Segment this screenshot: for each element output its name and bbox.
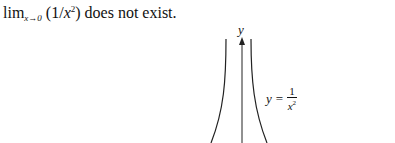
equation-fraction: 1 x2	[287, 86, 297, 112]
y-axis-arrow-icon	[239, 37, 245, 45]
denominator-exp: 2	[293, 99, 297, 107]
curve-left-branch	[211, 39, 226, 143]
y-axis-label: y	[238, 22, 244, 38]
function-graph	[0, 0, 395, 143]
equation-denominator: x2	[288, 98, 296, 112]
curve-right-branch	[251, 39, 267, 143]
curve-equation: y = 1 x2	[266, 86, 297, 112]
equation-lhs: y	[266, 91, 272, 107]
equation-equals: =	[276, 91, 283, 107]
equation-numerator: 1	[287, 86, 297, 98]
